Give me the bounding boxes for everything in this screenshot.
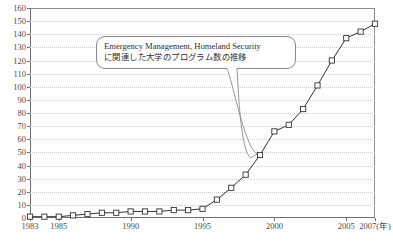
callout-tail-path (227, 69, 257, 158)
annotation-callout-tail (0, 0, 393, 252)
callout-tail-join-mask (228, 68, 237, 70)
chart-figure: 0102030405060708090100110120130140150160… (0, 0, 393, 252)
